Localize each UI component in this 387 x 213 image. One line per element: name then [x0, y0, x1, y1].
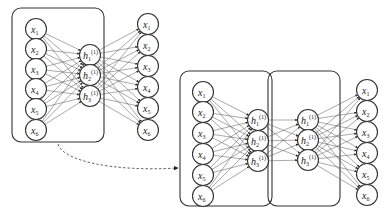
input-node: x2 — [193, 102, 214, 123]
connection-edge — [46, 50, 79, 54]
connection-edge — [318, 113, 356, 119]
connection-edge — [210, 148, 250, 188]
connection-edge — [100, 47, 137, 53]
output-node: x4 — [357, 143, 378, 164]
output-node: x4 — [138, 77, 159, 98]
hidden-node: h1(1) — [80, 45, 101, 66]
connection-edge — [45, 34, 80, 51]
output-node: x1 — [357, 80, 378, 101]
input-node: x1 — [26, 19, 47, 40]
connection-edge — [212, 126, 249, 149]
connection-edge — [212, 167, 249, 191]
connection-edge — [317, 165, 358, 189]
connection-edge — [100, 57, 137, 64]
connection-edge — [43, 82, 82, 122]
connection-edge — [45, 61, 81, 84]
output-node: x5 — [357, 164, 378, 185]
connection-edge — [44, 56, 82, 89]
hidden-node: h2(1) — [298, 130, 319, 151]
input-node: x4 — [193, 144, 214, 165]
connection-edge — [268, 160, 297, 161]
connection-edge — [210, 127, 250, 167]
hidden-node: h3(1) — [248, 151, 269, 172]
connection-edge — [213, 155, 247, 159]
output-node: x1 — [138, 14, 159, 35]
hidden-node: h3(1) — [80, 86, 101, 107]
hidden-node: h2(1) — [80, 65, 101, 86]
connection-edge — [45, 102, 81, 125]
output-node: x2 — [357, 101, 378, 122]
output-node: x3 — [138, 56, 159, 77]
hidden-node: h1(1) — [298, 110, 319, 131]
connection-edge — [43, 62, 82, 101]
connection-edge — [317, 145, 358, 169]
connection-edge — [211, 119, 250, 154]
output-node: x5 — [138, 98, 159, 119]
input-node: x5 — [193, 165, 214, 186]
hidden-node: h2(1) — [248, 131, 269, 152]
connection-edge — [314, 128, 360, 186]
connection-edge — [318, 133, 356, 138]
connection-edge — [45, 74, 80, 92]
input-node: x6 — [193, 186, 214, 207]
output-node: x6 — [138, 120, 159, 141]
connection-edge — [99, 29, 138, 50]
connection-edge — [316, 97, 359, 133]
input-node: x6 — [26, 120, 47, 141]
connection-edge — [213, 114, 247, 119]
connection-edge — [45, 81, 81, 104]
input-node: x5 — [26, 99, 47, 120]
input-node: x1 — [193, 82, 214, 103]
output-node: x6 — [357, 185, 378, 206]
output-node: x2 — [138, 35, 159, 56]
connection-edge — [99, 71, 138, 91]
connection-edge — [318, 162, 357, 171]
connection-edge — [43, 37, 84, 88]
connection-edge — [317, 116, 357, 136]
connection-edge — [212, 97, 248, 115]
connection-edge — [100, 98, 137, 106]
output-node: x3 — [357, 122, 378, 143]
connection-edge — [315, 98, 360, 152]
input-node: x3 — [26, 59, 47, 80]
input-node: x4 — [26, 79, 47, 100]
connection-edge — [317, 125, 358, 148]
transfer-arrow — [58, 144, 178, 169]
input-node: x3 — [193, 123, 214, 144]
connection-edge — [317, 95, 357, 115]
hidden-node: h3(1) — [298, 150, 319, 171]
hidden-node: h1(1) — [248, 110, 269, 131]
input-node: x2 — [26, 39, 47, 60]
connection-edge — [213, 164, 248, 173]
stacked-autoencoder-diagram: x1x2x3x4x5x6h1(1)h2(1)h3(1)x1x2x3x4x5x6x… — [0, 0, 387, 213]
